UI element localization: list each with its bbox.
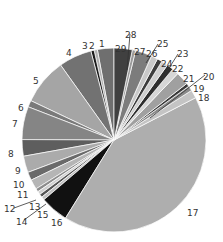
slice-label-20: 20	[203, 72, 215, 82]
slice-label-2: 2	[89, 41, 95, 51]
slice-label-4: 4	[66, 48, 72, 58]
slice-label-19: 19	[193, 84, 205, 94]
slice-label-8: 8	[8, 149, 14, 159]
slice-label-10: 10	[13, 180, 25, 190]
slice-label-12: 12	[4, 204, 15, 214]
slice-label-24: 24	[161, 59, 173, 69]
slice-label-29: 29	[115, 44, 127, 54]
pie-slices	[22, 48, 206, 232]
slice-label-25: 25	[157, 39, 168, 49]
slice-label-5: 5	[33, 76, 39, 86]
slice-label-15: 15	[37, 210, 48, 220]
slice-label-16: 16	[51, 218, 63, 228]
slice-label-6: 6	[18, 103, 24, 113]
slice-label-22: 22	[172, 64, 183, 74]
slice-label-17: 17	[187, 208, 198, 218]
slice-label-27: 27	[134, 47, 145, 57]
slice-label-9: 9	[15, 166, 21, 176]
slice-label-23: 23	[177, 49, 188, 59]
slice-label-14: 14	[16, 217, 28, 227]
pie-chart: 1234567891011121314151617181920212223242…	[0, 0, 223, 242]
slice-label-3: 3	[82, 41, 88, 51]
slice-label-28: 28	[125, 30, 137, 40]
slice-label-1: 1	[99, 39, 105, 49]
slice-label-21: 21	[183, 74, 194, 84]
slice-label-11: 11	[17, 190, 28, 200]
slice-label-18: 18	[198, 93, 210, 103]
slice-label-7: 7	[12, 119, 18, 129]
slice-label-26: 26	[146, 49, 158, 59]
